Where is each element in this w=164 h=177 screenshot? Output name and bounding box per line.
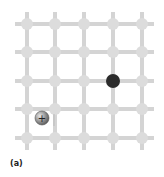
atom-node — [21, 103, 33, 115]
atom-node — [78, 132, 90, 144]
atom-node — [21, 18, 33, 30]
electron-icon — [106, 74, 120, 88]
atom-node — [49, 18, 61, 30]
figure-caption: (a) — [10, 159, 23, 168]
svg-text:+: + — [38, 113, 46, 124]
atom-node — [78, 18, 90, 30]
crystal-lattice-diagram: + — [0, 0, 164, 177]
hole-icon: + — [35, 111, 49, 125]
atom-node — [49, 103, 61, 115]
atom-node — [136, 75, 148, 87]
atom-node — [107, 132, 119, 144]
atom-node — [107, 46, 119, 58]
atom-node — [78, 103, 90, 115]
atom-node — [49, 132, 61, 144]
atom-node — [21, 132, 33, 144]
atom-node — [78, 46, 90, 58]
atom-node — [49, 75, 61, 87]
atom-node — [107, 103, 119, 115]
atom-node — [136, 18, 148, 30]
atom-node — [136, 132, 148, 144]
atom-node — [136, 103, 148, 115]
atom-node — [107, 18, 119, 30]
atom-node — [21, 46, 33, 58]
atom-node — [49, 46, 61, 58]
atom-node — [136, 46, 148, 58]
atom-node — [78, 75, 90, 87]
atom-node — [21, 75, 33, 87]
